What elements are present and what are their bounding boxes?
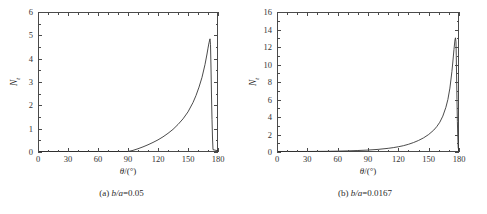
axis-tick [277, 100, 281, 101]
axis-tick [214, 105, 218, 106]
axis-tick [38, 24, 41, 25]
axis-tick [455, 135, 459, 136]
y-axis-subscript-a: t [14, 78, 21, 80]
x-tick-label: 0 [275, 154, 279, 164]
caption-value-b: 0.0167 [367, 188, 392, 198]
x-axis-title-a: θ/(°) [120, 166, 137, 176]
axis-tick [328, 12, 329, 15]
axis-tick [398, 148, 399, 152]
axis-tick [48, 12, 49, 15]
y-tick-label: 2 [29, 100, 33, 110]
x-tick-label: 60 [333, 154, 342, 164]
axis-tick [38, 140, 41, 141]
axis-tick [277, 12, 281, 13]
axis-tick [287, 12, 288, 15]
x-tick-label: 0 [36, 154, 40, 164]
axis-tick [78, 12, 79, 15]
axis-tick [38, 47, 41, 48]
y-tick-label: 16 [264, 7, 273, 17]
axis-tick [277, 65, 281, 66]
x-tick-label: 30 [64, 154, 73, 164]
y-tick-label: 0 [29, 147, 33, 157]
axis-tick [277, 73, 280, 74]
axis-tick [208, 150, 209, 153]
y-axis-title-a: Nt [9, 78, 21, 86]
axis-tick [307, 12, 308, 16]
x-tick-label: 120 [392, 154, 405, 164]
axis-tick [214, 82, 218, 83]
y-tick-label: 8 [268, 77, 272, 87]
axis-tick [58, 12, 59, 15]
axis-tick [439, 12, 440, 15]
axis-tick [455, 47, 459, 48]
curve-b [277, 12, 459, 152]
chart-panel-b: 0306090120150180 0246810121416 θ/(°) Nt … [243, 0, 487, 214]
axis-tick [128, 148, 129, 152]
x-tick-label: 90 [364, 154, 373, 164]
axis-tick [216, 117, 219, 118]
axis-tick [48, 150, 49, 153]
axis-tick [338, 12, 339, 16]
axis-tick [388, 150, 389, 153]
y-tick-label: 12 [264, 42, 273, 52]
axis-tick [198, 150, 199, 153]
axis-tick [58, 150, 59, 153]
axis-tick [188, 12, 189, 16]
axis-tick [328, 150, 329, 153]
axis-tick [158, 148, 159, 152]
x-tick-label: 90 [124, 154, 133, 164]
axis-tick [128, 12, 129, 16]
axis-tick [214, 35, 218, 36]
axis-tick [287, 150, 288, 153]
axis-tick [108, 150, 109, 153]
axis-tick [38, 35, 42, 36]
axis-tick [455, 152, 459, 153]
axis-tick [216, 70, 219, 71]
axis-tick [338, 148, 339, 152]
axis-tick [88, 12, 89, 15]
axis-tick [118, 12, 119, 15]
axis-tick [398, 12, 399, 16]
axis-tick [457, 38, 460, 39]
y-tick-label: 6 [268, 95, 272, 105]
axis-tick [455, 100, 459, 101]
caption-index-a: (a) [99, 188, 109, 198]
axis-tick [388, 12, 389, 15]
y-axis-title-b: Nt [248, 78, 260, 86]
axis-tick [216, 24, 219, 25]
axis-tick [168, 150, 169, 153]
axis-tick [408, 12, 409, 15]
axis-tick [297, 150, 298, 153]
axis-tick [457, 91, 460, 92]
axis-tick [368, 12, 369, 16]
axis-tick [419, 150, 420, 153]
axis-tick [429, 12, 430, 16]
caption-variable-b: b/a [351, 188, 363, 198]
axis-tick [178, 12, 179, 15]
axis-tick [317, 150, 318, 153]
axis-tick [188, 148, 189, 152]
x-tick-label: 150 [182, 154, 195, 164]
axis-tick [378, 150, 379, 153]
axis-tick [297, 12, 298, 15]
y-tick-label: 4 [268, 112, 272, 122]
axis-tick [277, 135, 281, 136]
axis-tick [317, 12, 318, 15]
axis-tick [108, 12, 109, 15]
axis-tick [216, 47, 219, 48]
figure-container: 0306090120150180 0123456 θ/(°) Nt (a) b/… [0, 0, 487, 214]
axis-tick [68, 12, 69, 16]
x-axis-title-b: θ/(°) [360, 166, 377, 176]
x-tick-label: 120 [152, 154, 165, 164]
axis-tick [38, 129, 42, 130]
axis-tick [208, 12, 209, 15]
axis-tick [449, 150, 450, 153]
axis-tick [307, 148, 308, 152]
axis-tick [455, 30, 459, 31]
axis-tick [277, 21, 280, 22]
y-tick-label: 1 [29, 124, 33, 134]
axis-tick [98, 148, 99, 152]
axis-tick [277, 143, 280, 144]
axis-tick [38, 59, 42, 60]
axis-tick [419, 12, 420, 15]
